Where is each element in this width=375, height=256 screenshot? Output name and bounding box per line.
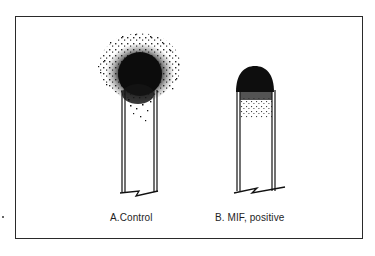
caption-a-control: A.Control — [110, 212, 153, 223]
tube-a — [120, 90, 158, 196]
illustration-svg — [0, 0, 375, 256]
panel-a-control — [98, 33, 181, 196]
panel-b-mif-positive — [234, 66, 285, 193]
figure-diagram: A.Control B. MIF, positive — [0, 0, 375, 256]
cell-dome-b — [236, 66, 274, 118]
cell-cloud-a — [98, 33, 181, 121]
caption-b-mif-positive: B. MIF, positive — [215, 212, 284, 223]
